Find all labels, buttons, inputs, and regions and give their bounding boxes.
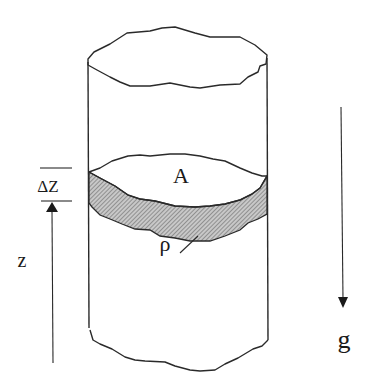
diagram-canvas: A ρ ΔZ z g [0, 0, 380, 385]
cylinder-top-cap [88, 27, 267, 88]
area-label: A [173, 163, 189, 188]
thickness-label: ΔZ [37, 177, 58, 196]
cylinder-bottom-edge [90, 330, 268, 371]
gravity-arrow-line [341, 107, 343, 300]
height-label: z [18, 249, 27, 271]
density-label: ρ [160, 231, 171, 256]
height-arrow-head-icon [46, 202, 58, 212]
height-axis-line [52, 211, 53, 363]
gravity-label: g [338, 325, 351, 354]
gravity-arrow-head-icon [338, 297, 348, 308]
